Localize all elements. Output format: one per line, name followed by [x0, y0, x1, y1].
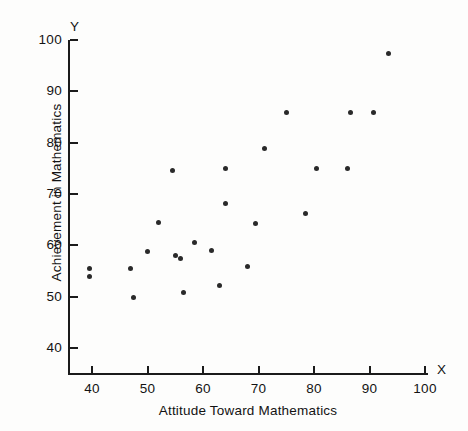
y-axis-tick-label: 100 — [28, 32, 62, 47]
data-point — [145, 249, 150, 254]
x-axis-tick — [147, 366, 149, 374]
x-axis-tick-label: 50 — [128, 381, 168, 396]
data-point — [371, 110, 376, 115]
scatter-plot-figure: Y X Achievement in Mathematics Attitude … — [0, 0, 468, 431]
y-axis-tick-label: 90 — [28, 83, 62, 98]
x-axis-tick — [313, 366, 315, 374]
y-axis-tick-label: 60 — [28, 237, 62, 252]
data-point — [345, 166, 350, 171]
x-axis-tick-label: 90 — [350, 381, 390, 396]
data-point — [87, 266, 92, 271]
data-point — [178, 256, 183, 261]
data-point — [386, 51, 391, 56]
x-axis-tick — [369, 366, 371, 374]
x-axis-tick — [202, 366, 204, 374]
x-axis-symbol: X — [437, 362, 446, 377]
x-axis-tick-label: 100 — [405, 381, 445, 396]
x-axis-tick-label: 80 — [294, 381, 334, 396]
data-point — [284, 110, 289, 115]
x-axis-line — [68, 373, 428, 375]
data-point — [223, 201, 228, 206]
y-axis-tick — [70, 90, 78, 92]
x-axis-tick-label: 60 — [183, 381, 223, 396]
data-point — [156, 220, 161, 225]
x-axis-tick-label: 70 — [239, 381, 279, 396]
y-axis-tick — [70, 39, 78, 41]
x-axis-title: Attitude Toward Mathematics — [68, 403, 428, 418]
y-axis-tick-label: 50 — [28, 289, 62, 304]
data-point — [303, 211, 308, 216]
y-axis-tick-label: 70 — [28, 186, 62, 201]
data-point — [181, 290, 186, 295]
data-point — [253, 221, 258, 226]
data-point — [223, 166, 228, 171]
data-point — [217, 283, 222, 288]
y-axis-tick — [70, 244, 78, 246]
y-axis-tick-label: 80 — [28, 135, 62, 150]
x-axis-tick — [424, 366, 426, 374]
x-axis-tick — [91, 366, 93, 374]
y-axis-tick-label: 40 — [28, 340, 62, 355]
data-point — [170, 168, 175, 173]
y-axis-tick — [70, 142, 78, 144]
y-axis-symbol: Y — [70, 19, 79, 34]
y-axis-tick — [70, 347, 78, 349]
data-point — [87, 274, 92, 279]
data-point — [209, 248, 214, 253]
data-point — [173, 253, 178, 258]
data-point — [128, 266, 133, 271]
data-point — [245, 264, 250, 269]
data-point — [348, 110, 353, 115]
data-point — [262, 146, 267, 151]
x-axis-tick — [258, 366, 260, 374]
x-axis-tick-label: 40 — [72, 381, 112, 396]
y-axis-tick — [70, 193, 78, 195]
y-axis-tick — [70, 296, 78, 298]
data-point — [192, 240, 197, 245]
data-point — [131, 295, 136, 300]
data-point — [314, 166, 319, 171]
